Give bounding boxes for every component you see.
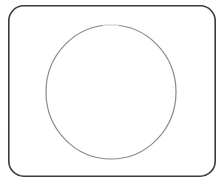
drawing-svg [0, 0, 224, 183]
drawing-canvas [0, 0, 224, 183]
canvas-background [0, 0, 224, 183]
